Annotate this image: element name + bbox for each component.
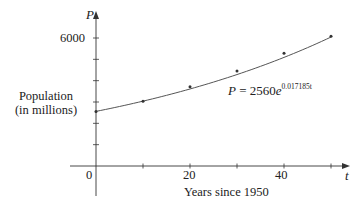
data-points: [95, 35, 333, 113]
data-point: [95, 110, 98, 113]
equation-lhs: P: [228, 83, 236, 98]
data-point: [283, 52, 286, 55]
data-point: [236, 70, 239, 73]
origin-label: 0: [86, 168, 92, 182]
y-axis-symbol: P: [86, 8, 94, 22]
model-equation: P = 2560e0.017185t: [228, 82, 312, 99]
equation-coefficient: = 2560: [236, 83, 276, 98]
x-axis-title: Years since 1950: [184, 185, 269, 199]
equation-exponent: 0.017185t: [282, 82, 312, 91]
exponential-model-curve: [96, 37, 331, 111]
y-axis-title: Population (in millions): [4, 89, 88, 117]
y-tick-label-6000: 6000: [60, 31, 85, 45]
x-axis-symbol: t: [345, 169, 349, 183]
data-point: [142, 100, 145, 103]
y-axis-title-line2: (in millions): [4, 103, 88, 117]
x-tick-label-20: 20: [183, 168, 196, 182]
data-point: [330, 35, 333, 38]
data-point: [189, 85, 192, 88]
x-tick-label-40: 40: [275, 168, 288, 182]
y-axis-title-line1: Population: [4, 89, 88, 103]
axis-ticks: [93, 38, 331, 168]
